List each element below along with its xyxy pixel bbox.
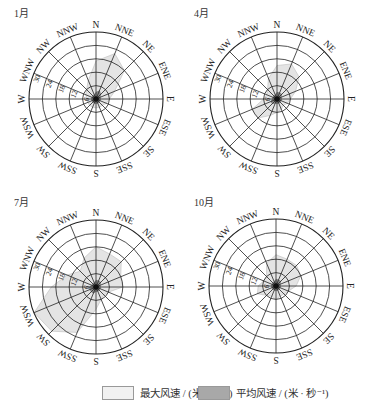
center-dot: [273, 283, 279, 289]
legend-swatch-avg: [198, 386, 230, 400]
direction-label: W: [17, 282, 27, 291]
direction-label: S: [274, 168, 279, 178]
direction-label: N: [274, 20, 281, 30]
direction-label: ENE: [338, 60, 354, 81]
radial-tick-label: 18: [237, 84, 248, 95]
direction-label: ENE: [157, 60, 173, 81]
direction-label: W: [197, 281, 207, 290]
direction-label: N: [93, 20, 100, 30]
direction-label: S: [93, 356, 98, 366]
direction-label: E: [346, 96, 356, 102]
direction-label: WSW: [199, 115, 217, 140]
wind-rose-4: NNNENEENEEESESESSESSSWSWWSWWWNWNWNNW6121…: [194, 197, 355, 365]
radial-tick-label: 12: [68, 89, 79, 100]
center-dot: [274, 96, 280, 102]
direction-label: SSW: [57, 347, 79, 364]
radial-tick-label: 24: [44, 266, 55, 277]
radial-tick-label: 12: [249, 89, 260, 100]
direction-label: NNW: [55, 21, 80, 39]
direction-label: S: [93, 168, 98, 178]
center-dot: [93, 284, 99, 290]
chart-title: 7月: [14, 197, 29, 208]
center-dot: [93, 96, 99, 102]
radial-tick-label: 30: [211, 260, 222, 271]
radial-tick-label: 18: [56, 84, 67, 95]
direction-label: SSW: [238, 159, 260, 176]
direction-label: N: [273, 207, 280, 217]
direction-label: NNW: [236, 21, 261, 39]
chart-title: 1月: [14, 8, 29, 19]
grid-spoke: [277, 99, 324, 146]
chart-title: 10月: [194, 197, 214, 208]
direction-label: N: [93, 208, 100, 218]
direction-label: NNW: [55, 209, 80, 227]
radial-tick-label: 30: [212, 73, 223, 84]
direction-label: NNE: [114, 210, 136, 227]
direction-label: NNE: [294, 209, 316, 226]
direction-label: SSW: [237, 346, 259, 363]
wind-rose-3: NNNENEENEEESESESSESSSWSWWSWWWNWNWNNW6121…: [14, 197, 175, 366]
direction-label: E: [165, 284, 175, 290]
direction-label: S: [273, 355, 278, 365]
wind-rose-2: NNNENEENEEESESESSESSSWSWWSWWWNWNWNNW6121…: [194, 8, 356, 178]
direction-label: ENE: [157, 248, 173, 269]
direction-label: W: [17, 94, 27, 103]
radial-tick-label: 18: [236, 271, 247, 282]
direction-label: E: [345, 283, 355, 289]
grid-spoke: [49, 99, 96, 146]
direction-label: E: [165, 96, 175, 102]
wind-rose-grid: NNNENEENEEESESESSESSSWSWWSWWWNWNWNNW6121…: [0, 0, 366, 380]
radial-tick-label: 30: [31, 73, 42, 84]
grid-spoke: [96, 287, 143, 334]
legend: 最大风速 / (米 · 秒⁻¹) 平均风速 / (米 · 秒⁻¹): [0, 381, 366, 405]
direction-label: NNE: [295, 22, 317, 39]
grid-spoke: [230, 99, 277, 146]
radial-tick-label: 24: [224, 265, 235, 276]
direction-label: SSW: [57, 159, 79, 176]
chart-title: 4月: [194, 8, 209, 19]
direction-label: WSW: [198, 302, 216, 327]
grid-spoke: [96, 99, 143, 146]
direction-label: W: [198, 94, 208, 103]
direction-label: WSW: [18, 115, 36, 140]
radial-tick-label: 12: [248, 276, 259, 287]
radial-tick-label: 24: [225, 78, 236, 89]
legend-item-avg: 平均风速 / (米 · 秒⁻¹): [198, 385, 329, 400]
radial-tick-label: 30: [31, 261, 42, 272]
radial-tick-label: 24: [44, 78, 55, 89]
grid-spoke: [229, 286, 276, 333]
direction-label: WSW: [18, 303, 36, 328]
direction-label: ENE: [337, 247, 353, 268]
direction-label: NNW: [235, 208, 260, 226]
direction-label: NNE: [114, 22, 136, 39]
wind-rose-1: NNNENEENEEESESESSESSSWSWWSWWWNWNWNNW6121…: [14, 8, 175, 178]
legend-label-avg: 平均风速 / (米 · 秒⁻¹): [236, 385, 329, 400]
legend-swatch-max: [102, 386, 134, 400]
grid-spoke: [276, 286, 323, 333]
